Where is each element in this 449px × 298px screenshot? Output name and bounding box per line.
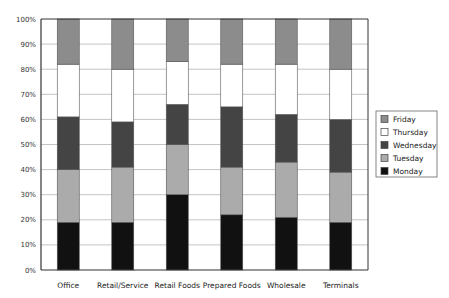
segment-monday xyxy=(166,195,188,270)
legend-label: Monday xyxy=(393,167,423,176)
legend-label: Tuesday xyxy=(392,154,424,163)
legend-item-tuesday: Tuesday xyxy=(381,154,424,163)
x-axis-labels: OfficeRetail/ServiceRetail FoodsPrepared… xyxy=(57,281,358,290)
legend-label: Friday xyxy=(393,115,416,124)
x-category-label: Wholesale xyxy=(267,281,306,290)
segment-thursday xyxy=(57,64,79,117)
bar-terminals xyxy=(330,19,352,270)
bar-retail-service xyxy=(112,19,134,270)
segment-tuesday xyxy=(221,167,243,215)
y-tick-label: 60% xyxy=(20,116,36,124)
segment-friday xyxy=(166,19,188,62)
x-category-label: Terminals xyxy=(322,281,359,290)
stacked-bar-chart: 0%10%20%30%40%50%60%70%80%90%100% Office… xyxy=(0,0,449,298)
legend-item-thursday: Thursday xyxy=(381,128,428,137)
y-axis-ticks: 0%10%20%30%40%50%60%70%80%90%100% xyxy=(16,16,36,275)
segment-thursday xyxy=(275,64,297,114)
y-tick-label: 30% xyxy=(20,191,36,199)
bar-wholesale xyxy=(275,19,297,270)
legend-label: Wednesday xyxy=(393,141,437,150)
segment-wednesday xyxy=(57,117,79,170)
segment-thursday xyxy=(166,62,188,105)
legend: FridayThursdayWednesdayTuesdayMonday xyxy=(376,111,437,177)
legend-item-monday: Monday xyxy=(381,167,423,176)
legend-swatch-icon xyxy=(381,129,388,136)
segment-friday xyxy=(275,19,297,64)
segment-tuesday xyxy=(166,145,188,195)
y-tick-label: 20% xyxy=(20,216,36,224)
legend-label: Thursday xyxy=(392,128,428,137)
y-tick-label: 0% xyxy=(25,267,36,275)
segment-wednesday xyxy=(275,114,297,162)
segment-wednesday xyxy=(166,104,188,144)
legend-swatch-icon xyxy=(381,168,388,175)
segment-monday xyxy=(57,222,79,270)
segment-tuesday xyxy=(57,170,79,223)
segment-wednesday xyxy=(221,107,243,167)
segment-monday xyxy=(112,222,134,270)
y-tick-label: 10% xyxy=(20,241,36,249)
y-tick-label: 100% xyxy=(16,16,36,24)
bar-retail-foods xyxy=(166,19,188,270)
x-category-label: Office xyxy=(57,281,79,290)
y-tick-label: 40% xyxy=(20,166,36,174)
segment-thursday xyxy=(221,64,243,107)
x-category-label: Prepared Foods xyxy=(203,281,261,290)
segment-monday xyxy=(221,215,243,270)
legend-swatch-icon xyxy=(381,116,388,123)
x-category-label: Retail/Service xyxy=(97,281,149,290)
y-tick-label: 70% xyxy=(20,91,36,99)
segment-tuesday xyxy=(330,172,352,222)
segment-friday xyxy=(221,19,243,64)
bar-office xyxy=(57,19,79,270)
segment-wednesday xyxy=(112,122,134,167)
segment-monday xyxy=(275,217,297,270)
legend-swatch-icon xyxy=(381,142,388,149)
segment-friday xyxy=(57,19,79,64)
segment-friday xyxy=(112,19,134,69)
bar-prepared-foods xyxy=(221,19,243,270)
segment-tuesday xyxy=(112,167,134,222)
legend-swatch-icon xyxy=(381,155,388,162)
y-tick-label: 90% xyxy=(20,41,36,49)
gridlines xyxy=(41,44,368,245)
y-tick-label: 80% xyxy=(20,66,36,74)
segment-monday xyxy=(330,222,352,270)
segment-thursday xyxy=(330,69,352,119)
legend-item-friday: Friday xyxy=(381,115,416,124)
segment-thursday xyxy=(112,69,134,122)
segment-wednesday xyxy=(330,119,352,172)
segment-tuesday xyxy=(275,162,297,217)
y-tick-label: 50% xyxy=(20,141,36,149)
x-category-label: Retail Foods xyxy=(155,281,201,290)
segment-friday xyxy=(330,19,352,69)
